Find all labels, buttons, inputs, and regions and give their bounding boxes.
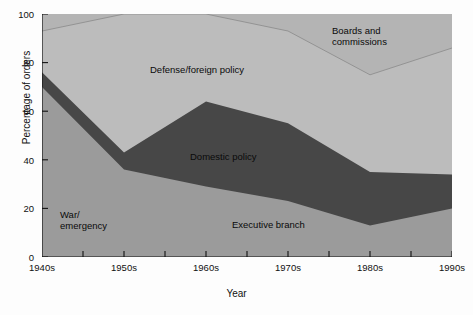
y-tick-label-40: 40 xyxy=(8,155,34,166)
x-tick-label-1950s: 1950s xyxy=(102,262,146,273)
x-tick-label-1990s: 1990s xyxy=(430,262,473,273)
plot-area: Boards and commissions Defense/foreign p… xyxy=(42,14,452,257)
series-label-war-emergency: War/ emergency xyxy=(60,209,107,231)
series-label-domestic-policy: Domestic policy xyxy=(190,151,257,162)
y-tick-label-80: 80 xyxy=(8,57,34,68)
x-tick-label-1940s: 1940s xyxy=(20,262,64,273)
y-tick-label-100: 100 xyxy=(8,9,34,20)
x-tick-label-1970s: 1970s xyxy=(266,262,310,273)
x-tick-label-1960s: 1960s xyxy=(184,262,228,273)
series-label-defense-foreign-policy: Defense/foreign policy xyxy=(150,64,244,75)
y-axis-title: Percentage of orders xyxy=(21,28,32,168)
chart-figure: Percentage of orders 100 80 60 40 20 0 1… xyxy=(0,0,473,315)
series-label-executive-branch: Executive branch xyxy=(232,219,305,230)
y-axis-title-wrap: Percentage of orders xyxy=(0,0,42,280)
y-tick-label-60: 60 xyxy=(8,106,34,117)
y-tick-label-20: 20 xyxy=(8,203,34,214)
x-tick-label-1980s: 1980s xyxy=(348,262,392,273)
series-label-boards-and-commissions: Boards and commissions xyxy=(332,25,387,47)
x-axis-title: Year xyxy=(0,288,473,299)
